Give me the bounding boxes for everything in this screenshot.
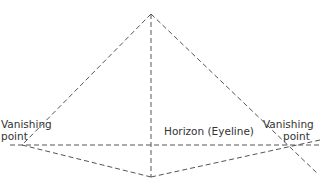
- left-bottom-converging-line: [22, 145, 151, 177]
- perspective-diagram: [0, 0, 328, 185]
- horizon-label: Horizon (Eyeline): [164, 125, 254, 138]
- left-vanishing-point-label-line2: point: [1, 130, 28, 143]
- right-top-converging-line: [151, 14, 318, 174]
- right-vanishing-point-label-line2: point: [283, 130, 310, 143]
- right-bottom-converging-line: [151, 140, 320, 177]
